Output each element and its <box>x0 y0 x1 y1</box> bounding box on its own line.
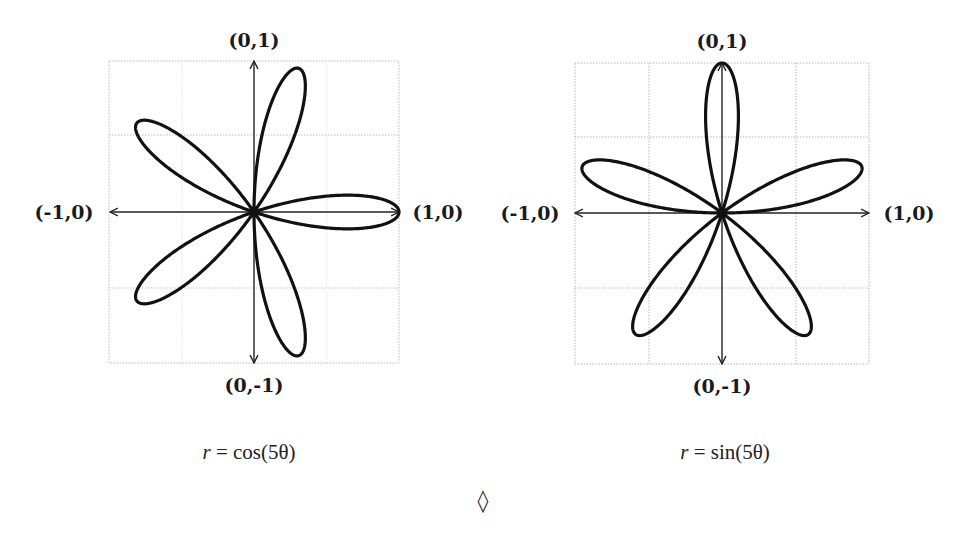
left-label-left: (-1,0) <box>35 201 94 223</box>
left-label-top: (0,1) <box>228 29 279 51</box>
caption-variable: r <box>202 440 210 464</box>
right-label-bottom: (0,-1) <box>693 375 752 397</box>
right-label-right: (1,0) <box>883 202 934 224</box>
left-label-bottom: (0,-1) <box>225 374 284 396</box>
caption-variable: r <box>680 440 688 464</box>
rose-plots-canvas <box>0 0 966 544</box>
caption-equation: = cos(5θ) <box>211 440 296 464</box>
right-label-top: (0,1) <box>696 30 747 52</box>
caption-equation: = sin(5θ) <box>688 440 769 464</box>
left-label-right: (1,0) <box>412 201 463 223</box>
left-caption: r = cos(5θ) <box>202 440 295 465</box>
right-caption: r = sin(5θ) <box>680 440 770 465</box>
diamond-separator-icon: ◊ <box>478 488 489 513</box>
right-label-left: (-1,0) <box>501 202 560 224</box>
